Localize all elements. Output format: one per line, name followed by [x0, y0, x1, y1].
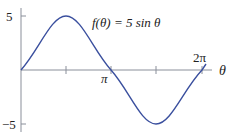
sine-chart: 5 −5 π 2π θ f(θ) = 5 sin θ [0, 0, 237, 137]
x-axis-label: θ [219, 63, 226, 78]
y-tick-label-neg5: −5 [2, 117, 16, 132]
function-annotation: f(θ) = 5 sin θ [92, 15, 161, 30]
x-tick-label-2pi: 2π [193, 50, 207, 65]
x-tick-label-pi: π [101, 71, 108, 86]
y-tick-label-5: 5 [6, 9, 13, 24]
